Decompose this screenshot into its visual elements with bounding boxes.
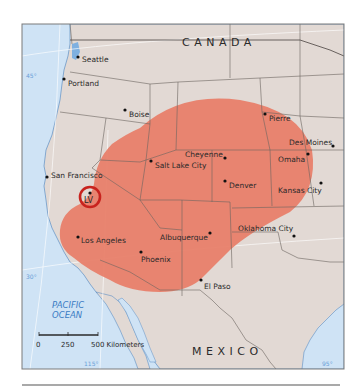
- city-label-kansas-city: Kansas City: [278, 186, 322, 195]
- city-marker-omaha: [306, 152, 309, 155]
- city-marker-kansas-city: [319, 181, 322, 184]
- city-marker-san-francisco: [45, 175, 48, 178]
- city-marker-seattle: [76, 55, 79, 58]
- city-marker-el-paso: [199, 278, 202, 281]
- scale-tick-500: 500 Kilometers: [91, 341, 144, 349]
- city-label-portland: Portland: [68, 79, 99, 88]
- grid-label-115: 115°: [84, 360, 98, 367]
- city-marker-phoenix: [139, 250, 142, 253]
- city-marker-salt-lake-city: [149, 159, 152, 162]
- city-marker-portland: [62, 77, 65, 80]
- grid-label-30: 30°: [26, 273, 37, 280]
- scale-tick-250: 250: [61, 341, 74, 349]
- grid-label-95: 95°: [322, 360, 333, 367]
- city-label-el-paso: El Paso: [204, 282, 231, 291]
- city-label-los-angeles: Los Angeles: [81, 236, 126, 245]
- city-label-albuquerque: Albuquerque: [160, 233, 208, 242]
- city-marker-boise: [123, 108, 126, 111]
- city-label-des-moines: Des Moines: [289, 138, 332, 147]
- city-label-oklahoma-city: Oklahoma City: [238, 224, 294, 233]
- city-label-omaha: Omaha: [278, 155, 305, 164]
- city-marker-cheyenne: [223, 156, 226, 159]
- city-marker-los-angeles: [76, 235, 79, 238]
- city-marker-oklahoma-city: [292, 234, 295, 237]
- city-label-denver: Denver: [229, 181, 257, 190]
- city-marker-albuquerque: [208, 231, 211, 234]
- city-label-seattle: Seattle: [82, 55, 109, 64]
- scale-tick-0: 0: [36, 341, 40, 349]
- grid-label-45: 45°: [26, 72, 37, 79]
- city-label-pierre: Pierre: [269, 114, 291, 123]
- ocean-label-line2: OCEAN: [52, 310, 83, 320]
- country-label-mexico: MEXICO: [192, 345, 263, 358]
- city-marker-pierre: [263, 112, 266, 115]
- ocean-label-line1: PACIFIC: [52, 300, 84, 310]
- city-marker-las-vegas: [88, 191, 91, 194]
- city-marker-denver: [223, 179, 226, 182]
- city-label-boise: Boise: [129, 110, 150, 119]
- highlight-label: LV: [84, 196, 94, 205]
- city-label-cheyenne: Cheyenne: [185, 150, 223, 159]
- city-label-salt-lake-city: Salt Lake City: [155, 161, 207, 170]
- city-label-san-francisco: San Francisco: [51, 171, 103, 180]
- country-label-canada: CANADA: [182, 36, 256, 49]
- map: CANADA MEXICO PACIFIC OCEAN 45° 30° 115°…: [0, 0, 364, 387]
- city-label-phoenix: Phoenix: [141, 255, 171, 264]
